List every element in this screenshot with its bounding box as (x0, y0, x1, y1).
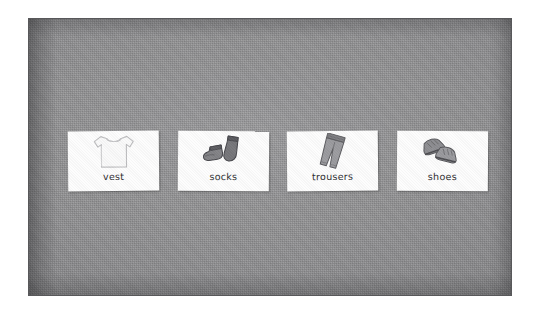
t-shirt-icon (84, 133, 142, 172)
left-edge-shadow (29, 19, 55, 295)
flashcard-label: trousers (312, 172, 353, 182)
flashcard-label: vest (103, 172, 124, 182)
flashcard-vest[interactable]: vest (68, 131, 160, 192)
photograph: vest socks (28, 18, 512, 296)
flashcard-row: vest socks (68, 131, 488, 193)
flashcard-label: socks (209, 172, 237, 182)
top-edge-shadow (29, 19, 511, 37)
bottom-edge-shadow (29, 273, 511, 295)
flashcard-socks[interactable]: socks (177, 131, 268, 192)
shoes-icon (413, 133, 471, 171)
flashcard-label: shoes (428, 172, 457, 182)
trousers-icon (304, 133, 362, 172)
right-edge-shadow (489, 19, 511, 295)
flashcard-trousers[interactable]: trousers (287, 131, 379, 192)
flashcard-shoes[interactable]: shoes (397, 131, 488, 192)
photo-page: vest socks (0, 0, 539, 314)
socks-icon (194, 133, 252, 171)
